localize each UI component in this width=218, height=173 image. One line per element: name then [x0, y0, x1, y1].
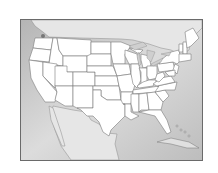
puget-sound-marker: [41, 34, 45, 38]
state-mississippi[interactable]: [131, 94, 139, 112]
us-state-map: [21, 20, 202, 160]
state-vermont[interactable]: [179, 44, 183, 52]
map-frame: [20, 19, 203, 161]
state-kansas[interactable]: [95, 76, 119, 86]
state-south-dakota[interactable]: [87, 54, 111, 66]
state-new-mexico[interactable]: [73, 86, 93, 108]
state-colorado[interactable]: [73, 72, 95, 86]
state-oregon[interactable]: [29, 48, 51, 62]
state-north-dakota[interactable]: [91, 42, 111, 54]
state-montana[interactable]: [57, 38, 91, 56]
